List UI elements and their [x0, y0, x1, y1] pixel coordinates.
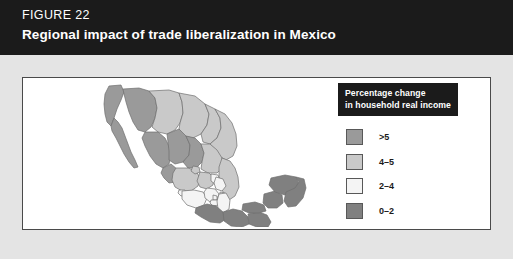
legend-title-line-2: in household real income: [345, 99, 451, 111]
legend-item: 4–5: [346, 150, 486, 175]
state-sinaloa: [142, 132, 171, 168]
figure-number: FIGURE 22: [22, 8, 90, 22]
legend-swatch: [346, 203, 363, 219]
legend-swatch: [346, 129, 363, 145]
legend-label: 4–5: [379, 157, 394, 167]
figure-container: FIGURE 22 Regional impact of trade liber…: [0, 0, 513, 259]
legend-swatch: [346, 178, 363, 194]
legend-item: 0–2: [346, 199, 486, 224]
figure-plate: Percentage change in household real inco…: [22, 77, 491, 230]
map-legend: Percentage change in household real inco…: [338, 83, 486, 223]
legend-label: >5: [379, 132, 389, 142]
state-distrito-federal: [213, 195, 217, 200]
figure-header: FIGURE 22 Regional impact of trade liber…: [0, 0, 513, 55]
figure-title: Regional impact of trade liberalization …: [22, 27, 336, 42]
map-svg: [83, 82, 323, 227]
state-tabasco: [242, 202, 266, 213]
legend-title-line-1: Percentage change: [345, 87, 451, 99]
legend-item: >5: [346, 125, 486, 150]
legend-label: 0–2: [379, 206, 394, 216]
legend-label: 2–4: [379, 181, 394, 191]
legend-items: >5 4–5 2–4 0–2: [338, 125, 486, 223]
legend-title: Percentage change in household real inco…: [338, 83, 458, 116]
legend-swatch: [346, 154, 363, 170]
legend-item: 2–4: [346, 174, 486, 199]
state-baja-california-sur: [111, 118, 138, 168]
state-chiapas: [248, 212, 271, 227]
mexico-choropleth-map: [83, 82, 323, 227]
